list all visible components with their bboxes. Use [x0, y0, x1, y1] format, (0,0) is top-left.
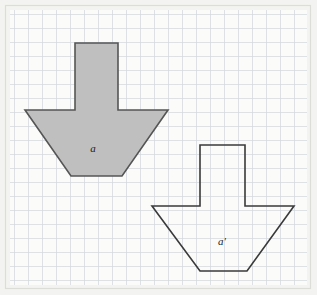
- arrow-original-label: a: [90, 142, 96, 154]
- geometry-diagram: a a': [0, 0, 317, 295]
- figure-canvas: a a': [0, 0, 317, 295]
- arrow-image-label: a': [218, 235, 227, 247]
